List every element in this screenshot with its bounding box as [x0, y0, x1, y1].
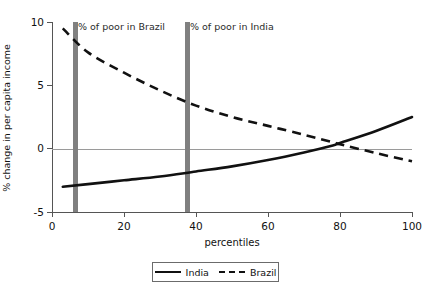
y-tick-label--5: -5	[34, 206, 44, 218]
annotation-brazil: % of poor in Brazil	[78, 21, 165, 32]
x-tick-label-80: 80	[333, 220, 346, 232]
y-tick-label-0: 0	[37, 142, 44, 154]
legend-item-brazil: Brazil	[219, 267, 277, 278]
series-line-brazil	[63, 28, 412, 161]
x-tick-100	[412, 212, 413, 217]
y-tick-label-5: 5	[37, 79, 44, 91]
legend-label-india: India	[186, 267, 209, 278]
x-tick-20	[124, 212, 125, 217]
y-axis-title: % change in per capita income	[1, 44, 12, 192]
x-tick-label-60: 60	[261, 220, 274, 232]
legend-label-brazil: Brazil	[250, 267, 277, 278]
annotation-india: % of poor in India	[190, 21, 274, 32]
plot-area: 10 5 0 -5 0 20 40 60 80 100	[52, 22, 412, 212]
x-tick-label-40: 40	[189, 220, 202, 232]
chart-figure: and Brazil and India % change in per cap…	[0, 0, 425, 287]
x-tick-label-20: 20	[117, 220, 130, 232]
x-tick-0	[52, 212, 53, 217]
chart-legend: India Brazil	[152, 262, 279, 282]
legend-swatch-india-solid-line	[155, 271, 181, 273]
legend-item-india: India	[155, 267, 209, 278]
x-tick-label-100: 100	[402, 220, 422, 232]
series-line-india	[63, 117, 412, 187]
x-tick-60	[268, 212, 269, 217]
x-axis-line	[52, 212, 412, 213]
x-axis-title: percentiles	[204, 237, 259, 248]
y-tick-label-10: 10	[31, 16, 44, 28]
legend-swatch-brazil-dashed-line	[219, 271, 245, 273]
series-lines	[52, 22, 412, 212]
x-tick-label-0: 0	[49, 220, 56, 232]
x-tick-80	[340, 212, 341, 217]
x-tick-40	[196, 212, 197, 217]
